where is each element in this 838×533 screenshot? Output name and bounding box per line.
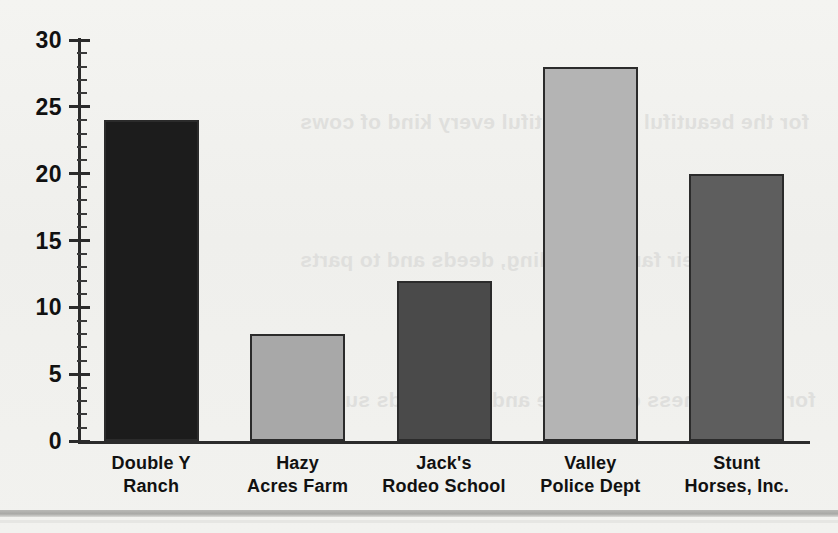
y-axis-minor-tick (77, 346, 87, 348)
y-axis-minor-tick (77, 360, 87, 362)
y-axis-tick-label: 15 (35, 227, 62, 254)
y-axis-major-tick (69, 373, 90, 376)
y-axis-major-tick (69, 172, 90, 175)
bar (250, 334, 345, 441)
y-axis-minor-tick (77, 266, 87, 268)
y-axis-major-tick (69, 440, 90, 443)
y-axis-minor-tick (77, 387, 87, 389)
y-axis-tick-label: 10 (35, 294, 62, 321)
y-axis-minor-tick (77, 146, 87, 148)
x-axis-category-label-line: Acres Farm (224, 475, 370, 498)
y-axis-minor-tick (77, 159, 87, 161)
page-bottom-rule-light (0, 520, 838, 523)
y-axis-minor-tick (77, 400, 87, 402)
y-axis-minor-tick (77, 320, 87, 322)
y-axis-tick-label: 20 (35, 160, 62, 187)
x-axis-category-label-line: Stunt (664, 452, 810, 475)
y-axis-minor-tick (77, 52, 87, 54)
bar (689, 174, 784, 441)
y-axis-minor-tick (77, 427, 87, 429)
y-axis-minor-tick (77, 253, 87, 255)
y-axis-major-tick (69, 105, 90, 108)
page-bottom-rule (0, 510, 838, 517)
x-axis-category-label: ValleyPolice Dept (517, 452, 663, 498)
x-axis-category-label-line: Rodeo School (371, 475, 517, 498)
x-axis-category-label: Double YRanch (78, 452, 224, 498)
y-axis-minor-tick (77, 119, 87, 121)
y-axis-minor-tick (77, 199, 87, 201)
x-axis-category-label-line: Jack's (371, 452, 517, 475)
y-axis-minor-tick (77, 92, 87, 94)
y-axis-minor-tick (77, 293, 87, 295)
x-axis-category-label: HazyAcres Farm (224, 452, 370, 498)
x-axis-category-label-line: Hazy (224, 452, 370, 475)
y-axis-tick-label: 30 (35, 27, 62, 54)
x-axis-labels: Double YRanchHazyAcres FarmJack'sRodeo S… (78, 452, 810, 514)
x-axis-category-label-line: Valley (517, 452, 663, 475)
x-axis-category-label-line: Horses, Inc. (664, 475, 810, 498)
x-axis-category-label-line: Police Dept (517, 475, 663, 498)
y-axis-minor-tick (77, 133, 87, 135)
x-axis-category-label-line: Double Y (78, 452, 224, 475)
y-axis-minor-tick (77, 66, 87, 68)
bar (543, 67, 638, 441)
y-axis-tick-label: 0 (49, 428, 62, 455)
bar-chart: 051015202530 Double YRanchHazyAcres Farm… (0, 0, 838, 533)
y-axis-tick-label: 25 (35, 93, 62, 120)
y-axis-minor-tick (77, 413, 87, 415)
y-axis-minor-tick (77, 226, 87, 228)
y-axis-major-tick (69, 306, 90, 309)
x-axis-category-label-line: Ranch (78, 475, 224, 498)
bar (104, 120, 199, 441)
y-axis-minor-tick (77, 213, 87, 215)
x-axis-line (78, 441, 810, 444)
y-axis-minor-tick (77, 333, 87, 335)
y-axis-minor-tick (77, 79, 87, 81)
y-axis-tick-label: 5 (49, 361, 62, 388)
chart-page: for the beautiful and beautiful every ki… (0, 0, 838, 533)
x-axis-category-label: Jack'sRodeo School (371, 452, 517, 498)
x-axis-category-label: StuntHorses, Inc. (664, 452, 810, 498)
y-axis-major-tick (69, 39, 90, 42)
y-axis-major-tick (69, 239, 90, 242)
bar (397, 281, 492, 441)
y-axis-minor-tick (77, 280, 87, 282)
plot-area: 051015202530 (78, 40, 810, 441)
y-axis-minor-tick (77, 186, 87, 188)
